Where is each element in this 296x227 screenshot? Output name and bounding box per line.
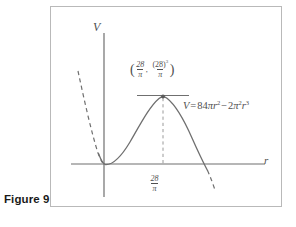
- r-axis-label: r: [264, 155, 268, 166]
- curve-dashed-right: [208, 171, 216, 192]
- max-y-numerator-base: (28): [152, 60, 165, 69]
- max-y-denominator: π: [157, 69, 163, 79]
- equation-term2-exponent: 3: [246, 99, 249, 106]
- max-x-fraction: 28π: [135, 61, 145, 79]
- v-axis-label: V: [93, 21, 100, 33]
- equation-minus-sign: −: [221, 100, 227, 111]
- max-y-numerator: (28)3: [151, 61, 169, 70]
- x-tick-label: 28π: [149, 175, 160, 193]
- maximum-point-label: (28π, (28)3π): [130, 61, 174, 79]
- figure-panel: V r (28π, (28)3π) 28π V = 84πr2 − 2π2r3: [50, 6, 282, 207]
- tick-fraction: 28π: [150, 175, 160, 193]
- paren-open-icon: (: [130, 62, 135, 77]
- coord-comma: ,: [146, 65, 148, 74]
- curve-equation-label: V = 84πr2 − 2π2r3: [183, 101, 249, 112]
- paren-close-icon: ): [170, 62, 175, 77]
- equation-equals: =: [190, 100, 196, 111]
- curve-dashed-left: [78, 71, 105, 165]
- equation-lhs: V: [183, 100, 189, 111]
- max-x-numerator: 28: [135, 61, 145, 70]
- figure-container: V r (28π, (28)3π) 28π V = 84πr2 − 2π2r3 …: [0, 0, 296, 227]
- max-x-denominator: π: [137, 69, 143, 79]
- maximum-point-marker: [161, 95, 165, 99]
- figure-caption: Figure 9: [4, 193, 50, 205]
- equation-term1-exponent: 2: [217, 99, 220, 106]
- tick-numerator: 28: [150, 175, 160, 184]
- max-y-fraction: (28)3π: [151, 61, 169, 79]
- tick-denominator: π: [151, 183, 157, 193]
- equation-term1-coefficient: 84: [197, 100, 208, 111]
- max-y-numerator-exponent: 3: [166, 59, 168, 64]
